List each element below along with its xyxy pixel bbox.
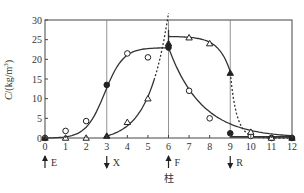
triangle-marker — [145, 95, 151, 100]
arrow-down-icon — [104, 163, 110, 169]
y-axis-label: C/(kg/m3) — [2, 60, 15, 100]
x-tick-label: 11 — [267, 141, 277, 152]
x-tick-label: 5 — [145, 141, 150, 152]
x-tick-label: 6 — [166, 141, 171, 152]
annotation-label: X — [113, 157, 121, 168]
x-tick-label: 10 — [246, 141, 256, 152]
x-tick-label: 2 — [84, 141, 89, 152]
annotation-label: R — [236, 157, 243, 168]
annotation-label: F — [175, 157, 181, 168]
circle-marker — [145, 55, 151, 61]
triangle-marker — [124, 119, 130, 124]
y-axis: 051015202530 — [32, 15, 48, 144]
x-tick-label: 9 — [228, 141, 233, 152]
y-tick-label: 5 — [37, 113, 42, 124]
circle-marker — [125, 51, 131, 57]
circle-marker — [104, 82, 110, 88]
circle-marker — [63, 128, 69, 134]
y-tick-label: 0 — [37, 133, 42, 144]
y-tick-label: 20 — [32, 54, 42, 65]
arrow-down-icon — [227, 163, 233, 169]
triangle-fit-plateau — [169, 37, 231, 72]
circle-marker — [83, 118, 89, 124]
x-tick-label: 12 — [287, 141, 297, 152]
y-tick-label: 25 — [32, 34, 42, 45]
triangle-fit-rise — [107, 80, 154, 136]
x-tick-label: 0 — [43, 141, 48, 152]
x-tick-label: 8 — [207, 141, 212, 152]
y-tick-label: 30 — [32, 15, 42, 26]
chart: 0123456789101112 051015202530 EXF柱R C/(k… — [0, 0, 304, 193]
x-tick-label: 7 — [187, 141, 192, 152]
circle-marker — [186, 88, 192, 94]
x-tick-label: 1 — [63, 141, 68, 152]
x-tick-label: 4 — [125, 141, 130, 152]
triangle-fit-drop — [230, 73, 292, 138]
y-tick-label: 10 — [32, 93, 42, 104]
step-annotations: EXF柱R — [42, 155, 243, 184]
annotation-label: E — [51, 157, 57, 168]
triangle-marker — [165, 40, 171, 45]
circle-marker — [207, 116, 213, 122]
annotation-sublabel: 柱 — [164, 172, 174, 184]
arrow-up-icon — [42, 155, 48, 161]
triangle-marker — [227, 70, 233, 75]
arrow-up-icon — [166, 155, 172, 161]
y-tick-label: 15 — [32, 74, 42, 85]
x-tick-label: 3 — [104, 141, 109, 152]
